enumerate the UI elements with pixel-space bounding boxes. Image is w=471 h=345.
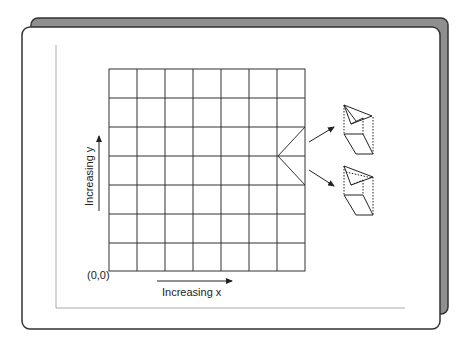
x-axis-label: Increasing x xyxy=(162,286,222,298)
diagram-canvas: (0,0) Increasing x Increasing y xyxy=(0,0,471,345)
y-axis-label: Increasing y xyxy=(83,146,95,206)
origin-label: (0,0) xyxy=(87,269,110,281)
